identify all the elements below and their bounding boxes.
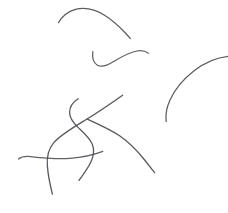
canvas-background (0, 0, 228, 213)
sketch-drawing (0, 0, 228, 213)
sketch-canvas (0, 0, 228, 213)
